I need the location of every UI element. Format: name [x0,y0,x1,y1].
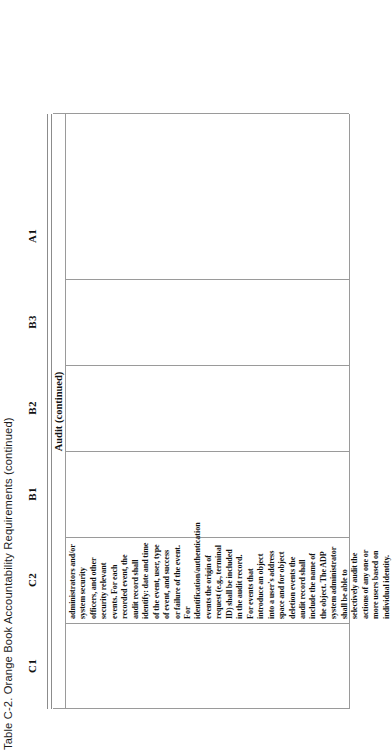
column-header-a1: A1 [17,193,47,279]
section-band-row: Audit (continued) [53,114,66,709]
table-header-row: C1 C2 B1 B2 B3 A1 [17,114,47,709]
table-cell-c2: administrators and/or system security of… [66,537,349,623]
column-header-b1: B1 [17,451,47,537]
table-bottom-rule [349,114,350,709]
table-cell-b3 [66,279,349,365]
table-right-edge-rule [53,113,349,114]
table-cell-b1 [66,451,349,537]
column-header-b3: B3 [17,279,47,365]
column-header-b2: B2 [17,365,47,451]
accountability-requirements-table: C1 C2 B1 B2 B3 A1 Audit (continued) admi… [17,114,357,709]
table-cell-c1 [66,623,349,709]
header-double-rule [47,114,52,709]
table-left-edge-rule [53,708,349,709]
table-body-row: administrators and/or system security of… [66,114,349,709]
table-cell-a1 [66,193,349,279]
table-cell-c2-text: administrators and/or system security of… [68,541,392,619]
column-header-c1: C1 [17,623,47,709]
section-band-label: Audit (continued) [53,114,65,709]
column-header-c2: C2 [17,537,47,623]
table-cell-b2 [66,365,349,451]
